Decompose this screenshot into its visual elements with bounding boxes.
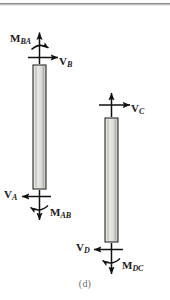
top-rule (0, 3, 170, 5)
label-m-ba-main: M (10, 32, 20, 44)
label-v-d-sub: D (84, 246, 90, 255)
label-v-c: VC (131, 99, 144, 116)
label-m-dc: MDC (122, 256, 143, 273)
label-m-ab-sub: AB (60, 211, 70, 220)
joint-d-forces (94, 243, 123, 274)
free-body-diagram-figure: MBA VB VA MAB VC VD MDC (d) (0, 0, 170, 300)
label-v-a-sub: A (12, 193, 17, 202)
label-v-a-main: V (4, 188, 12, 200)
label-v-b-sub: B (67, 60, 72, 69)
label-v-b-main: V (59, 55, 67, 67)
top-rule-shadow (0, 5, 170, 6)
label-v-b: VB (59, 52, 72, 69)
column-ab (33, 65, 46, 189)
label-v-d: VD (76, 238, 90, 255)
joint-a-forces (22, 190, 51, 220)
figure-caption: (d) (0, 278, 170, 289)
label-m-dc-main: M (122, 259, 132, 271)
label-v-c-main: V (131, 102, 139, 114)
joint-c-forces (99, 93, 130, 117)
column-cd-body (105, 118, 118, 242)
label-v-a: VA (4, 185, 17, 202)
label-m-ab-main: M (50, 206, 60, 218)
column-ab-body (33, 65, 46, 189)
label-m-dc-sub: DC (132, 264, 143, 273)
label-v-d-main: V (76, 241, 84, 253)
label-m-ba: MBA (10, 29, 31, 46)
label-m-ba-sub: BA (20, 37, 30, 46)
label-m-ab: MAB (50, 203, 71, 220)
joint-b-forces (28, 33, 58, 65)
label-v-c-sub: C (139, 107, 144, 116)
column-cd (105, 118, 118, 242)
